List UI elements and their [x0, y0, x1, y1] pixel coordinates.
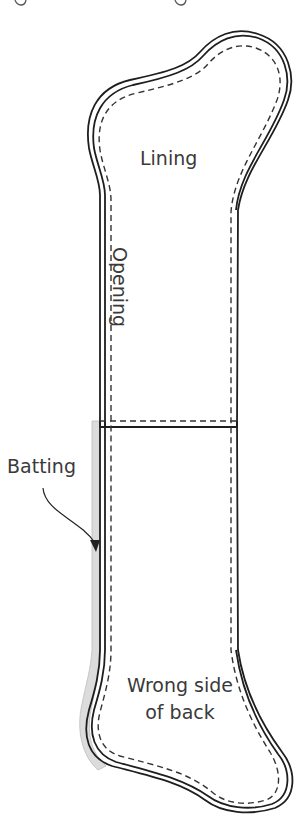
label-lining: Lining [140, 147, 197, 169]
lining-piece-outline [88, 31, 291, 427]
batting-arrow [43, 488, 100, 552]
label-opening: Opening [109, 247, 131, 327]
back-piece-outline [86, 421, 292, 812]
label-batting: Batting [7, 455, 76, 477]
cropped-caption-fragments [15, 0, 186, 5]
label-wrong-side-line2: of back [122, 699, 238, 726]
label-wrong-side-line1: Wrong side [122, 672, 238, 699]
label-wrong-side-of-back: Wrong side of back [122, 672, 238, 726]
